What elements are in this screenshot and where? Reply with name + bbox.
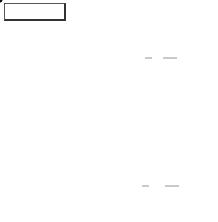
diagram-canvas [0,0,218,222]
lower-intersection-point [0,0,2,2]
